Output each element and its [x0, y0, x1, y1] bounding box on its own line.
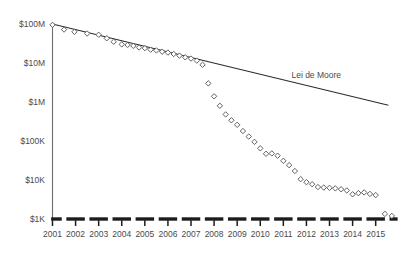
data-point-marker [171, 51, 176, 56]
data-point-marker [298, 176, 303, 181]
data-point-marker [333, 186, 338, 191]
data-point-marker [281, 158, 286, 163]
trend-line-lei-de-moore [53, 24, 389, 105]
data-point-marker [240, 128, 245, 133]
x-axis-tick-label: 2005 [135, 229, 154, 239]
data-point-marker [315, 184, 320, 189]
data-point-marker [263, 151, 268, 156]
data-point-marker [211, 94, 216, 99]
x-axis-tick-label: 2002 [66, 229, 85, 239]
data-point-marker [304, 179, 309, 184]
data-point-marker [310, 182, 315, 187]
data-point-marker [373, 192, 378, 197]
data-point-marker [327, 185, 332, 190]
y-axis-tick-label: $100M [19, 19, 45, 29]
x-axis-tick-label: 2001 [43, 229, 62, 239]
data-point-marker [96, 32, 101, 37]
data-point-marker [269, 151, 274, 156]
data-point-marker [111, 39, 116, 44]
x-axis-tick-label: 2014 [343, 229, 362, 239]
data-point-marker [275, 153, 280, 158]
data-point-marker [50, 22, 55, 27]
x-axis-tick-label: 2007 [182, 229, 201, 239]
y-axis-tick-labels: $100M$10M$1M$100K$10K$1K [19, 19, 45, 224]
x-axis-tick-label: 2009 [228, 229, 247, 239]
data-point-marker [234, 122, 239, 127]
data-point-marker [292, 168, 297, 173]
x-axis-tick-label: 2003 [89, 229, 108, 239]
data-point-marker [217, 103, 222, 108]
y-axis-tick-label: $10M [24, 58, 45, 68]
y-axis-tick-label: $100K [20, 136, 45, 146]
data-point-marker [119, 42, 124, 47]
cost-per-genome-data-points [50, 22, 395, 218]
data-point-marker [356, 190, 361, 195]
data-point-marker [286, 162, 291, 167]
x-axis-tick-label: 2013 [320, 229, 339, 239]
x-axis-tick-label: 2004 [112, 229, 131, 239]
x-axis-tick-label: 2012 [297, 229, 316, 239]
x-axis-tick-labels: 2001200220032004200520062007200820092010… [43, 229, 385, 239]
data-point-marker [165, 50, 170, 55]
annotation-label: Lei de Moore [291, 70, 341, 80]
y-axis-tick-label: $1K [30, 214, 45, 224]
data-point-marker [382, 211, 387, 216]
data-point-marker [350, 192, 355, 197]
data-point-marker [361, 190, 366, 195]
data-point-marker [321, 185, 326, 190]
data-point-marker [200, 62, 205, 67]
x-axis-tick-label: 2010 [251, 229, 270, 239]
x-axis-tick-label: 2011 [274, 229, 293, 239]
chart-plot-area: $100M$10M$1M$100K$10K$1K 200120022003200… [0, 0, 410, 258]
x-axis-tick-label: 2008 [205, 229, 224, 239]
data-point-marker [338, 187, 343, 192]
cost-per-genome-chart: $100M$10M$1M$100K$10K$1K 200120022003200… [0, 0, 410, 258]
data-point-marker [223, 112, 228, 117]
x-axis-tick-label: 2006 [158, 229, 177, 239]
y-axis-tick-label: $1M [28, 97, 45, 107]
x-axis-ticks [53, 220, 376, 226]
moore-law-trend-line [53, 24, 389, 105]
chart-annotations: Lei de Moore [291, 70, 341, 80]
data-point-marker [344, 188, 349, 193]
y-axis-tick-label: $10K [25, 175, 45, 185]
x-axis-tick-label: 2015 [366, 229, 385, 239]
data-point-marker [367, 191, 372, 196]
data-point-marker [252, 139, 257, 144]
data-point-marker [229, 118, 234, 123]
data-point-marker [258, 146, 263, 151]
data-point-marker [206, 81, 211, 86]
data-point-marker [246, 134, 251, 139]
